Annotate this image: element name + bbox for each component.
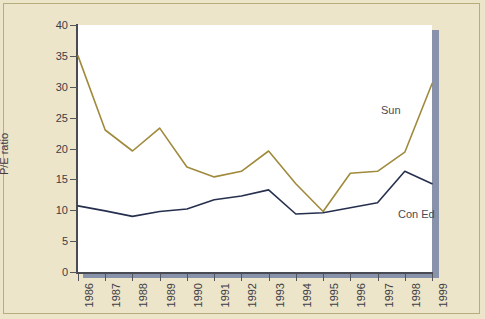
- line-series-sun: [78, 56, 432, 212]
- chart-figure: 0510152025303540 19861987198819891990199…: [0, 0, 485, 319]
- series-lines: [0, 0, 485, 319]
- series-label-sun: Sun: [381, 104, 401, 116]
- line-series-coned: [78, 171, 432, 216]
- series-label-coned: Con Ed: [398, 208, 435, 220]
